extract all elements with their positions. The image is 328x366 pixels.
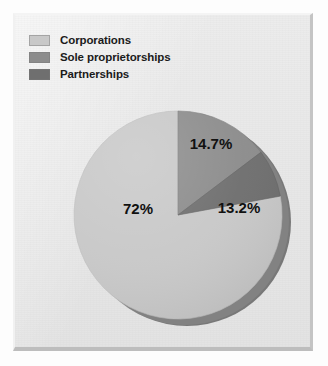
legend-item-partnerships[interactable]: Partnerships: [29, 67, 170, 82]
figure-root: 14.7% 13.2% 72% Corporations Sole propri…: [0, 0, 328, 366]
legend-label-sole-proprietorships: Sole proprietorships: [60, 52, 170, 64]
pie-label-partnerships: 13.2%: [218, 199, 261, 216]
chart-panel: 14.7% 13.2% 72% Corporations Sole propri…: [13, 13, 313, 351]
pie-label-sole-proprietorships: 14.7%: [190, 135, 233, 152]
legend-swatch-icon-sole-proprietorships: [29, 52, 50, 63]
legend-swatch-icon-corporations: [29, 35, 50, 46]
chart-legend: Corporations Sole proprietorships Partne…: [29, 33, 170, 84]
legend-item-corporations[interactable]: Corporations: [29, 33, 170, 48]
pie-label-corporations: 72%: [123, 200, 153, 217]
legend-label-partnerships: Partnerships: [60, 69, 129, 81]
legend-swatch-icon-partnerships: [29, 69, 50, 80]
legend-item-sole-proprietorships[interactable]: Sole proprietorships: [29, 50, 170, 65]
legend-label-corporations: Corporations: [60, 35, 131, 47]
